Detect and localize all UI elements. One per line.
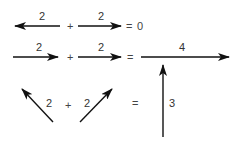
vector-magnitude-label: 4 [179, 41, 185, 53]
vector-magnitude-label: 2 [36, 41, 42, 53]
vector-2: 2 [78, 10, 121, 26]
vector-1: 2 [13, 41, 58, 57]
vector-magnitude-label: 2 [39, 10, 45, 22]
vector-magnitude-label: 2 [98, 41, 104, 53]
vector-addition-diagram: 22+=022+=422+=3 [0, 0, 239, 144]
equals-sign: = [132, 97, 138, 109]
equals-sign: = [127, 51, 133, 63]
plus-sign: + [65, 99, 71, 111]
vector-2: 2 [78, 41, 121, 57]
result-vector: 3 [163, 65, 175, 137]
equals-sign: = [126, 20, 132, 32]
vector-magnitude-label: 2 [98, 10, 104, 22]
result-value: 0 [137, 20, 143, 32]
vector-1: 2 [15, 10, 60, 26]
vector-2: 2 [80, 89, 112, 122]
vector-magnitude-label: 2 [46, 97, 52, 109]
vector-1: 2 [22, 89, 53, 122]
plus-sign: + [67, 51, 73, 63]
vector-magnitude-label: 3 [169, 97, 175, 109]
plus-sign: + [67, 20, 73, 32]
result-vector: 4 [141, 41, 229, 57]
vector-magnitude-label: 2 [84, 97, 90, 109]
